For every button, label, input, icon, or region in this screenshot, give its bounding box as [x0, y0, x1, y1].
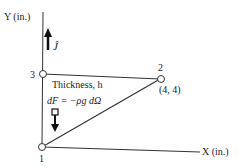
node-1	[39, 144, 46, 151]
unit-vector-j-label: Ĵ	[53, 40, 59, 52]
node-2	[158, 76, 165, 83]
differential-element-icon	[52, 109, 58, 115]
node-2-coord-label: (4, 4)	[159, 84, 181, 96]
thickness-label: Thickness, h	[52, 79, 103, 90]
y-axis-label: Y (in.)	[4, 11, 30, 23]
x-axis-label: X (in.)	[202, 146, 229, 158]
unit-vector-j-arrow	[44, 28, 52, 50]
triangle-element-diagram: Y (in.) X (in.) Ĵ 1 2 (4, 4) 3 Thickness…	[0, 0, 245, 168]
force-arrow-down-icon	[51, 115, 59, 132]
node-3-label: 3	[30, 69, 35, 80]
node-3	[40, 71, 47, 78]
node-1-label: 1	[39, 153, 44, 164]
force-equation-label: dF = −ρg dΩ	[47, 95, 101, 106]
node-2-label: 2	[158, 62, 163, 73]
x-axis	[42, 147, 200, 152]
y-axis	[42, 12, 43, 147]
